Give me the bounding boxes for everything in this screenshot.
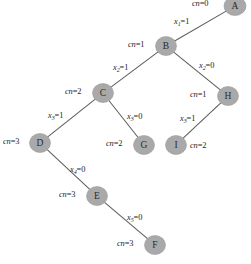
decision-tree-diagram: ABCHDGIEF x1=1x2=1x2=0x3=1x3=0x3=1x4=0x5… [0,0,251,264]
tree-node-b[interactable]: B [156,37,177,56]
edge-label-a-b: x1=1 [174,18,189,27]
node-cn-label-e: cn=3 [59,191,75,199]
tree-node-f[interactable]: F [145,236,166,255]
tree-node-d[interactable]: D [30,134,51,153]
tree-graphics: ABCHDGIEF [0,0,251,264]
node-cn-label-c: cn=2 [65,88,81,96]
tree-node-g[interactable]: G [134,136,155,155]
node-letter-g: G [141,140,148,150]
node-cn-label-i: cn=2 [190,142,206,150]
node-letter-d: D [37,138,44,148]
node-cn-label-h: cn=1 [190,91,206,99]
tree-edge-b-h [173,52,220,90]
node-letter-i: I [174,140,177,150]
node-cn-label-f: cn=3 [117,240,133,248]
tree-node-i[interactable]: I [166,136,187,155]
node-cn-label-a: cn=0 [192,0,208,8]
tree-node-h[interactable]: H [218,87,239,106]
node-cn-label-g: cn=2 [106,140,122,148]
edge-label-h-i: x3=1 [180,115,195,124]
edge-label-b-c: x2=1 [113,64,128,73]
node-letter-f: F [152,240,157,250]
node-letter-b: B [163,41,169,51]
edge-label-d-e: x4=0 [70,166,85,175]
tree-node-a[interactable]: A [224,0,246,16]
node-letter-h: H [225,91,232,101]
node-letter-c: C [100,88,106,98]
node-letter-a: A [232,1,239,11]
edge-label-c-d: x3=1 [48,112,63,121]
node-cn-label-d: cn=3 [3,138,19,146]
node-letter-e: E [94,191,100,201]
tree-node-e[interactable]: E [87,187,108,206]
edge-label-e-f: x5=0 [127,214,142,223]
tree-node-c[interactable]: C [93,84,114,103]
edge-label-c-g: x3=0 [127,113,142,122]
edge-label-b-h: x2=0 [199,62,214,71]
node-cn-label-b: cn=1 [128,41,144,49]
